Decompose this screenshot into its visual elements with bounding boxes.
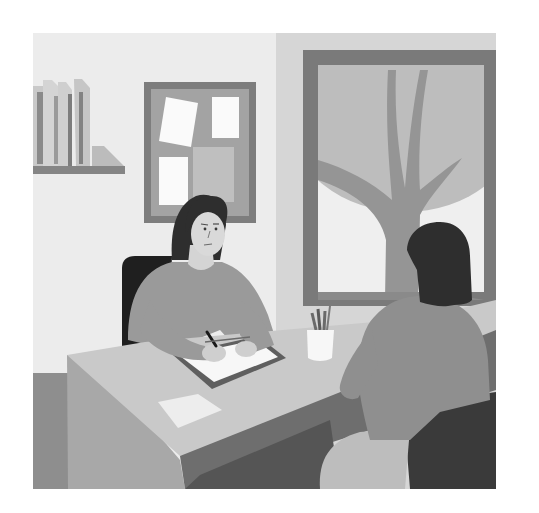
pencil	[318, 309, 320, 330]
face	[191, 212, 225, 256]
note-gray	[193, 147, 234, 202]
window	[290, 28, 520, 306]
pencil	[324, 311, 325, 330]
scene-right-mask	[496, 0, 539, 513]
note	[212, 97, 239, 138]
floor-left	[33, 373, 69, 489]
book-spine	[37, 92, 43, 164]
note	[159, 157, 188, 205]
book-spine	[79, 92, 83, 164]
hand-right	[235, 341, 257, 357]
book-spine	[68, 94, 72, 166]
cup	[307, 330, 334, 361]
office-interview-illustration	[0, 0, 539, 513]
shelf-board	[33, 166, 125, 174]
note-tilted	[159, 97, 198, 147]
hand-left	[202, 344, 226, 362]
scene-bottom-mask	[0, 489, 539, 513]
